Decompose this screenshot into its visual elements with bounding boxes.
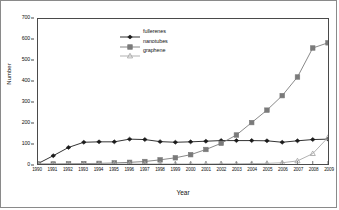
series-fullerenes	[38, 137, 328, 164]
x-tick-label: 1993	[78, 167, 88, 172]
y-tick-label: 100	[22, 141, 30, 146]
x-tick-label: 2002	[217, 167, 227, 172]
data-point-marker	[97, 140, 102, 144]
y-tick-mark	[31, 102, 34, 103]
y-tick-mark	[31, 144, 34, 145]
x-axis-labels: 1990199119921993199419951996199719981999…	[37, 167, 329, 181]
x-tick-label: 2004	[247, 167, 257, 172]
legend-label: graphene	[143, 47, 165, 53]
legend-label: nanotubes	[143, 38, 168, 44]
data-point-marker	[326, 41, 328, 46]
data-point-marker	[173, 156, 178, 161]
x-tick-label: 2005	[263, 167, 273, 172]
data-point-marker	[295, 75, 300, 80]
data-point-marker	[310, 138, 315, 142]
x-tick-label: 2006	[278, 167, 288, 172]
data-point-marker	[127, 137, 132, 141]
x-tick-label: 2001	[201, 167, 211, 172]
data-point-marker	[188, 140, 193, 144]
y-tick-mark	[31, 165, 34, 166]
plot-area	[37, 18, 329, 165]
legend-item-fullerenes: fullerenes	[119, 27, 168, 35]
legend-item-nanotubes: nanotubes	[119, 37, 168, 45]
x-tick-label: 1994	[94, 167, 104, 172]
y-tick-label: 0	[27, 162, 30, 167]
data-point-marker	[51, 154, 56, 158]
y-tick-label: 700	[22, 15, 30, 20]
x-tick-label: 1992	[63, 167, 73, 172]
data-point-marker	[310, 46, 315, 51]
data-point-marker	[249, 120, 254, 125]
data-point-marker	[234, 133, 239, 138]
y-axis-labels: 0100200300400500600700	[1, 18, 34, 165]
y-tick-label: 500	[22, 57, 30, 62]
y-tick-mark	[31, 18, 34, 19]
series-line	[38, 139, 328, 163]
data-point-marker	[234, 139, 239, 143]
square-marker-icon	[119, 37, 141, 45]
x-tick-label: 1998	[155, 167, 165, 172]
x-tick-label: 1995	[109, 167, 119, 172]
x-tick-label: 1997	[140, 167, 150, 172]
series-graphene	[38, 135, 328, 164]
chart-svg	[38, 19, 328, 164]
legend-label: fullerenes	[143, 28, 166, 34]
data-point-marker	[280, 140, 285, 144]
series-line	[38, 43, 328, 164]
data-point-marker	[204, 147, 209, 152]
data-point-marker	[112, 140, 117, 144]
y-tick-mark	[31, 81, 34, 82]
data-point-marker	[66, 145, 71, 149]
chart-figure: Number 0100200300400500600700 fullerenes…	[0, 0, 337, 208]
x-tick-label: 1999	[171, 167, 181, 172]
y-tick-mark	[31, 60, 34, 61]
triangle-marker-icon	[119, 46, 141, 54]
x-tick-label: 1991	[48, 167, 58, 172]
x-tick-label: 1990	[32, 167, 42, 172]
x-axis-title: Year	[37, 189, 329, 196]
x-tick-label: 2003	[232, 167, 242, 172]
data-point-marker	[265, 139, 270, 143]
y-tick-mark	[31, 123, 34, 124]
y-tick-label: 300	[22, 99, 30, 104]
y-tick-mark	[31, 39, 34, 40]
data-point-marker	[249, 139, 254, 143]
data-point-marker	[158, 140, 163, 144]
data-point-marker	[173, 140, 178, 144]
chart-legend: fullerenesnanotubesgraphene	[119, 27, 168, 54]
x-tick-label: 1996	[124, 167, 134, 172]
diamond-marker-icon	[119, 27, 141, 35]
x-tick-label: 2007	[293, 167, 303, 172]
legend-item-graphene: graphene	[119, 46, 168, 54]
data-point-marker	[280, 93, 285, 98]
y-tick-label: 600	[22, 36, 30, 41]
data-point-marker	[219, 141, 224, 146]
data-point-marker	[143, 138, 148, 142]
data-point-marker	[295, 139, 300, 143]
y-tick-label: 400	[22, 78, 30, 83]
x-tick-label: 2000	[186, 167, 196, 172]
data-point-marker	[265, 108, 270, 113]
y-tick-label: 200	[22, 120, 30, 125]
data-point-marker	[204, 139, 209, 143]
series-line	[38, 137, 328, 164]
data-point-marker	[188, 152, 193, 157]
data-point-marker	[82, 140, 87, 144]
x-tick-label: 2009	[324, 167, 334, 172]
series-nanotubes	[38, 41, 328, 164]
x-tick-label: 2008	[309, 167, 319, 172]
